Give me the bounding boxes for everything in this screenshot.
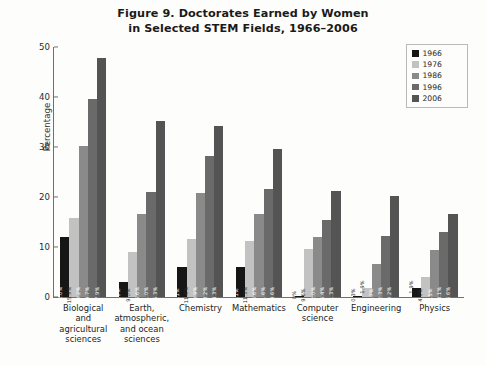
bar[interactable]: 16.6% [448,214,457,297]
legend-swatch-icon [412,84,419,91]
bar[interactable]: 12.0% [60,237,69,297]
x-axis-category-label-line: agricultural [54,324,113,334]
bar[interactable]: 28.2% [205,156,214,297]
bar[interactable]: 35.3% [156,121,165,298]
bar[interactable]: 16.6% [137,214,146,297]
bar-group: 0.3%1.9%6.7%12.3%20.2% [353,47,399,297]
bar[interactable]: 39.7% [88,99,97,298]
bar[interactable]: 15.4% [322,220,331,297]
bar-value-label: 3.0% [114,288,123,301]
y-axis-tick-label: 0 [20,292,50,302]
bar-group-bars: 3.0%9.0%16.6%21.0%35.3% [119,47,165,297]
x-axis-category-label-line: sciences [54,334,113,344]
bar[interactable]: 47.9% [97,58,106,298]
x-axis-category-label: Mathematics [230,303,289,313]
y-axis-tick-mark [54,96,58,97]
x-axis-category-label: Computerscience [288,303,347,324]
bar[interactable]: 6.7% [372,264,381,298]
legend-item-label: 1996 [423,83,442,92]
figure-container: Figure 9. Doctorates Earned by Women in … [0,0,486,365]
x-axis-category-label-line: Biological and [54,303,113,324]
plot-area: Percentage 01020304050 12.0%15.9%30.2%39… [54,47,464,297]
y-axis-tick-mark [54,196,58,197]
legend-item[interactable]: 1966 [412,49,462,58]
x-axis-category-label: Physics [405,303,464,313]
bar-group: 6.1%11.6%20.9%28.2%34.3% [177,47,223,297]
x-axis-category-label: Chemistry [171,303,230,313]
bar[interactable]: 21.6% [264,189,273,297]
x-axis-category-label-line: Physics [405,303,464,313]
x-axis-category-label-line: science [288,313,347,323]
bar-value-label: 12.0% [56,287,65,304]
bar[interactable]: 21.3% [331,191,340,298]
bar[interactable]: 16.6% [254,214,263,297]
bar[interactable]: 12.0% [313,237,322,297]
bar[interactable]: 15.9% [69,218,78,298]
bar[interactable]: 9.5% [430,250,439,298]
bar[interactable]: 30.2% [79,146,88,297]
chart-title-line-1: Figure 9. Doctorates Earned by Women [0,6,486,21]
legend-item[interactable]: 1996 [412,83,462,92]
y-axis-tick-label: 40 [20,92,50,102]
bar[interactable]: 11.3% [245,241,254,298]
legend-item-label: 1966 [423,49,442,58]
bar[interactable]: 29.6% [273,149,282,297]
legend-item[interactable]: 2006 [412,94,462,103]
bar-group-bars: 6.1%11.6%20.9%28.2%34.3% [177,47,223,297]
bar[interactable]: 4.0% [421,277,430,297]
legend-item[interactable]: 1976 [412,60,462,69]
x-axis-category-label-line: Engineering [347,303,406,313]
x-axis-category-label-line: sciences [113,334,172,344]
bar[interactable]: 20.9% [196,193,205,298]
bar[interactable]: 9.6% [304,249,313,297]
bar[interactable]: 13.1% [439,232,448,298]
x-axis-category-label-line: Computer [288,303,347,313]
legend-swatch-icon [412,61,419,68]
bar[interactable]: 9.0% [128,252,137,297]
y-axis-tick-label: 30 [20,142,50,152]
x-axis-category-label-line: Mathematics [230,303,289,313]
bar[interactable]: 20.2% [390,196,399,297]
y-axis-tick-mark [54,296,58,297]
bar-group: 3.0%9.0%16.6%21.0%35.3% [119,47,165,297]
bar[interactable]: 1.9% [412,288,421,298]
y-axis-tick-label: 10 [20,242,50,252]
y-axis-tick-label: 50 [20,42,50,52]
legend-swatch-icon [412,95,419,102]
bar[interactable]: 6.1% [177,267,186,298]
bar[interactable]: 0% [295,296,304,297]
x-axis-category-label-line: Chemistry [171,303,230,313]
bar[interactable]: 21.0% [146,192,155,297]
x-axis-category-label-line: Earth, [113,303,172,313]
bar[interactable]: 1.9% [362,288,371,298]
chart-legend: 19661976198619962006 [406,44,468,108]
legend-item-label: 2006 [423,94,442,103]
x-axis-category-label-line: atmospheric, [113,313,172,323]
bar-group-bars: 0%9.6%12.0%15.4%21.3% [295,47,341,297]
x-axis-category-label-line: and ocean [113,324,172,334]
bar-value-label: 6.1% [173,288,182,301]
chart-title: Figure 9. Doctorates Earned by Women in … [0,6,486,36]
x-axis-category-label: Biological andagriculturalsciences [54,303,113,345]
legend-item[interactable]: 1986 [412,71,462,80]
legend-item-label: 1986 [423,71,442,80]
bar[interactable]: 12.3% [381,236,390,298]
bar-value-label: 1.9% [358,280,367,293]
legend-item-label: 1976 [423,60,442,69]
bar[interactable]: 3.0% [119,282,128,297]
bar-value-label: 9.6% [299,288,308,301]
y-axis-tick-mark [54,246,58,247]
bar-value-label: 0% [290,291,299,299]
bar-value-label: 6.1% [232,288,241,301]
legend-swatch-icon [412,50,419,57]
bar-value-label: 1.9% [407,280,416,293]
y-axis-tick-mark [54,46,58,47]
bar-group: 0%9.6%12.0%15.4%21.3% [295,47,341,297]
bar[interactable]: 0.3% [353,296,362,298]
bar-group: 6.1%11.3%16.6%21.6%29.6% [236,47,282,297]
bar[interactable]: 6.1% [236,267,245,298]
x-axis-category-label: Earth,atmospheric,and oceansciences [113,303,172,345]
bar[interactable]: 11.6% [187,239,196,297]
bar[interactable]: 34.3% [214,126,223,298]
y-axis-tick-mark [54,146,58,147]
